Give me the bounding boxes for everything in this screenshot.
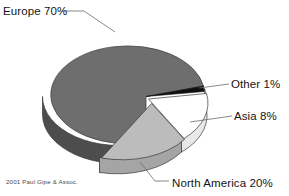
pie-label-asia: Asia 8% xyxy=(234,110,277,123)
pie-label-other: Other 1% xyxy=(231,78,280,91)
pie-label-north-america: North America 20% xyxy=(172,177,273,190)
pie-chart-graphic xyxy=(0,0,289,196)
leader-line-europe xyxy=(62,11,115,32)
copyright-credit: 2001 Paul Gipe & Assoc. xyxy=(6,178,78,186)
pie-label-europe: Europe 70% xyxy=(3,5,67,18)
pie-chart: Europe 70% Other 1% Asia 8% North Americ… xyxy=(0,0,289,196)
